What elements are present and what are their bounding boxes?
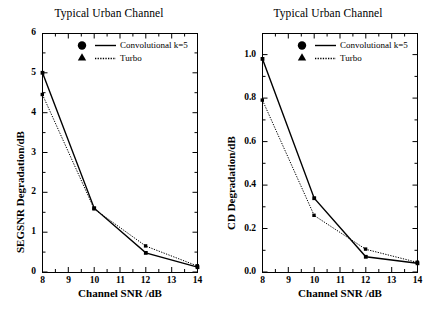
y-tick-label-10: 1.0 (227, 49, 256, 59)
y-tick-label-5: 5 (16, 67, 36, 77)
y-axis-ticks (263, 55, 268, 272)
x-axis-ticks-top (275, 34, 404, 39)
x-tick-label-11: 11 (330, 275, 351, 285)
x-tick-label-14: 14 (407, 275, 428, 285)
x-tick-label-12: 12 (355, 275, 376, 285)
chart-panel-segsnr: Typical Urban Channel (0, 0, 218, 310)
figure-two-panel-degradation: Typical Urban Channel (0, 0, 437, 324)
legend-marker-triangle-icon (78, 53, 86, 60)
series-markers (41, 71, 200, 269)
legend-label-convolutional: Convolutional k=5 (340, 40, 408, 50)
x-tick-label-14: 14 (187, 275, 208, 285)
legend-label-turbo: Turbo (340, 53, 362, 63)
y-tick-label-08: 0.8 (227, 92, 256, 102)
y-axis-title: CD Degradation/dB (225, 136, 237, 230)
series-turbo-line (43, 95, 198, 266)
x-tick-label-13: 13 (161, 275, 182, 285)
x-tick-label-8: 8 (32, 275, 53, 285)
x-axis-title: Channel SNR /dB (42, 287, 198, 299)
y-axis-ticks (43, 34, 48, 273)
x-axis-ticks (263, 267, 418, 272)
x-tick-label-11: 11 (110, 275, 131, 285)
y-tick-label-6: 6 (16, 27, 36, 37)
x-tick-label-13: 13 (381, 275, 402, 285)
x-tick-label-9: 9 (58, 275, 79, 285)
legend-marker-circle-icon (78, 41, 86, 49)
x-tick-label-12: 12 (135, 275, 156, 285)
series-convolutional-line (43, 73, 198, 267)
legend-label-turbo: Turbo (120, 53, 142, 63)
legend-marker-circle-icon (298, 41, 306, 49)
x-tick-label-10: 10 (304, 275, 325, 285)
y-axis-ticks-right (413, 55, 418, 272)
x-tick-label-10: 10 (84, 275, 105, 285)
series-markers (261, 57, 420, 265)
y-tick-label-4: 4 (16, 107, 36, 117)
x-axis-ticks (43, 267, 198, 272)
y-axis-title: SEGSNR Degradation/dB (14, 131, 26, 253)
x-axis-title: Channel SNR /dB (262, 287, 418, 299)
plot-frame (43, 34, 198, 273)
chart-panel-cd: Typical Urban Channel (219, 0, 437, 310)
x-tick-label-8: 8 (252, 275, 273, 285)
y-axis-ticks-right (193, 53, 198, 272)
legend-label-convolutional: Convolutional k=5 (120, 40, 188, 50)
x-tick-label-9: 9 (278, 275, 299, 285)
x-axis-ticks-top (55, 34, 184, 39)
legend-marker-triangle-icon (298, 53, 306, 60)
series-turbo-line (263, 100, 418, 262)
